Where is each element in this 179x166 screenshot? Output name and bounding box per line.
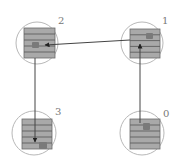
node-3 xyxy=(12,111,56,155)
token-marker xyxy=(32,42,39,48)
node-label-2: 2 xyxy=(58,15,64,26)
node-1 xyxy=(121,22,163,64)
token-marker xyxy=(143,123,150,130)
node-0 xyxy=(120,111,164,155)
node-label-0: 0 xyxy=(163,108,169,119)
stack-box xyxy=(22,119,52,149)
graph-diagram: 0123 xyxy=(0,0,179,166)
diagram-canvas: 0123 xyxy=(0,0,179,166)
node-label-3: 3 xyxy=(55,106,61,117)
node-2 xyxy=(16,22,58,64)
token-marker xyxy=(146,33,153,39)
stack-box xyxy=(130,29,160,58)
node-label-1: 1 xyxy=(162,15,168,26)
stack-box xyxy=(24,28,55,58)
token-marker xyxy=(39,142,47,149)
